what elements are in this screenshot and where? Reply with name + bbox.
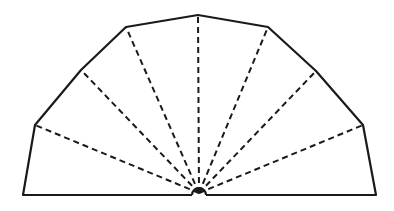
dashed-fold-lines	[35, 15, 363, 193]
fan-diagram-svg	[0, 0, 394, 211]
dashed-ray-4	[198, 15, 199, 193]
dashed-ray-3	[126, 27, 199, 193]
dashed-ray-6	[199, 71, 316, 193]
dashed-ray-2	[81, 70, 199, 193]
fan-diagram	[0, 0, 394, 211]
